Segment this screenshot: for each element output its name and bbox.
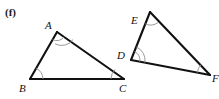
vertex-label-b: B bbox=[19, 83, 26, 94]
angle-arc-b bbox=[36, 68, 43, 79]
figure-canvas bbox=[0, 0, 219, 99]
part-label: (f) bbox=[5, 7, 16, 18]
vertex-label-e: E bbox=[131, 15, 138, 26]
vertex-label-c: C bbox=[119, 83, 126, 94]
triangle-def bbox=[131, 12, 210, 75]
triangle-abc bbox=[30, 32, 124, 79]
angle-arc-e bbox=[145, 23, 158, 25]
vertex-label-d: D bbox=[117, 50, 125, 61]
geometry-figure: (f) A B C D E F bbox=[0, 0, 219, 99]
vertex-label-f: F bbox=[212, 73, 219, 84]
angle-arc-f bbox=[197, 64, 201, 72]
side-ca bbox=[57, 32, 124, 79]
side-ab bbox=[30, 32, 57, 79]
vertex-label-a: A bbox=[45, 20, 52, 31]
